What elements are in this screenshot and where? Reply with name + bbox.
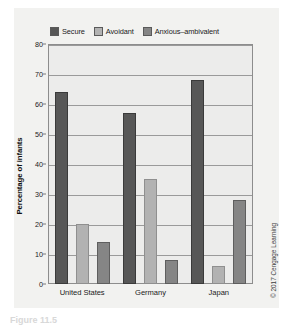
legend-swatch-avoidant [94,27,103,36]
y-axis-tick-mark [43,194,46,195]
y-axis-tick-mark [43,224,46,225]
y-axis-tick-mark [43,254,46,255]
legend-item-anxious-ambivalent[interactable]: Anxious–ambivalent [143,27,219,36]
y-axis-tick-label: 50 [35,130,43,139]
x-axis-tick-label: United States [60,288,105,297]
x-axis-tick-label: Japan [209,288,229,297]
bar[interactable] [55,92,68,284]
y-axis-tick-mark [43,104,46,105]
copyright-credit: © 2017 Cengage Learning [270,188,280,298]
y-axis-tick-label: 30 [35,190,43,199]
y-axis-tick-mark [43,44,46,45]
x-axis-tick-label: Germany [135,288,166,297]
bar[interactable] [212,266,225,284]
y-axis-tick-mark [43,74,46,75]
bar[interactable] [123,113,136,284]
legend-swatch-anxious-ambivalent [143,27,152,36]
bar[interactable] [97,242,110,284]
bar-group [185,44,253,284]
legend-swatch-secure [50,27,59,36]
y-axis-tick-label: 10 [35,250,43,259]
bar[interactable] [233,200,246,284]
y-axis-tick-mark [43,284,46,285]
legend-label-anxious-ambivalent: Anxious–ambivalent [155,27,219,36]
y-axis-ticks: 01020304050607080 [26,44,46,284]
figure-container: Secure Avoidant Anxious–ambivalent Perce… [0,0,293,329]
bar-group [116,44,184,284]
y-axis-tick-label: 40 [35,160,43,169]
legend-item-avoidant[interactable]: Avoidant [94,27,134,36]
legend-item-secure[interactable]: Secure [50,27,85,36]
y-axis-tick-label: 60 [35,100,43,109]
y-axis-tick-label: 20 [35,220,43,229]
y-axis-tick-mark [43,164,46,165]
chart-legend: Secure Avoidant Anxious–ambivalent [50,24,260,38]
bar[interactable] [76,224,89,284]
bar[interactable] [191,80,204,284]
figure-caption: Figure 11.5 [10,315,210,325]
legend-label-avoidant: Avoidant [106,27,134,36]
y-axis-tick-label: 70 [35,70,43,79]
x-axis-labels: United StatesGermanyJapan [48,288,253,302]
y-axis-tick-mark [43,134,46,135]
bars-layer [48,44,253,284]
bar-group [48,44,116,284]
bar[interactable] [144,179,157,284]
legend-label-secure: Secure [62,27,85,36]
bar[interactable] [165,260,178,284]
y-axis-tick-label: 80 [35,40,43,49]
